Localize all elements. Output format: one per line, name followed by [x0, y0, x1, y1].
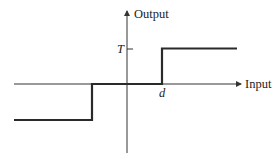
y-axis-label: Output: [134, 7, 169, 21]
threshold-input-label: d: [159, 86, 166, 100]
x-axis-label: Input: [245, 77, 272, 91]
step-function-diagram: Output Input T d: [0, 0, 275, 162]
threshold-output-label: T: [117, 42, 125, 56]
